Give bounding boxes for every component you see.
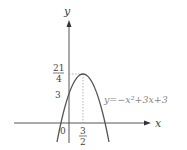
y-vertex-num: 21 <box>53 63 64 73</box>
equation-label: y=−x²+3x+3 <box>103 94 168 105</box>
x-vertex-den: 2 <box>80 137 86 147</box>
y-intercept-label: 3 <box>55 90 61 100</box>
y-axis-arrow-icon <box>67 20 72 27</box>
origin-label: 0 <box>60 126 66 136</box>
x-axis-arrow-icon <box>144 121 151 126</box>
parabola-graph: y x 0 21 4 3 3 2 y=−x²+3x+3 <box>0 0 187 150</box>
y-vertex-den: 4 <box>56 74 62 84</box>
x-axis-label: x <box>155 117 162 130</box>
y-axis-label: y <box>63 5 71 18</box>
x-vertex-num: 3 <box>80 126 86 136</box>
